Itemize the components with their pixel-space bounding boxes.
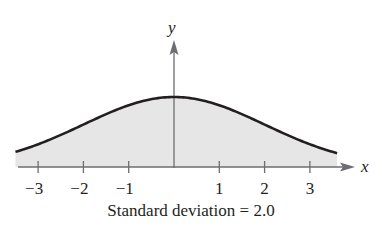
x-tick-label: −2: [70, 179, 88, 198]
x-tick-label: 1: [215, 179, 224, 198]
y-axis-label: y: [166, 18, 176, 37]
x-tick-label: −3: [25, 179, 43, 198]
x-axis-label: x: [360, 157, 369, 176]
normal-distribution-chart: −3−2−1123 x y: [0, 0, 382, 229]
chart-caption: Standard deviation = 2.0: [0, 201, 382, 221]
shaded-area: [15, 97, 337, 167]
x-tick-label: 2: [260, 179, 269, 198]
x-tick-label: −1: [116, 179, 134, 198]
x-tick-label: 3: [306, 179, 315, 198]
